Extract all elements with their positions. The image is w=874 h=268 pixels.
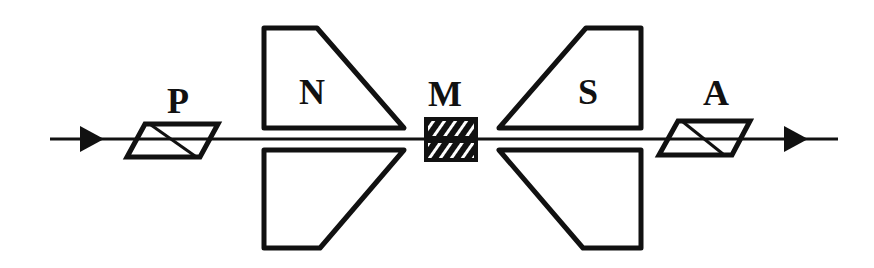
medium-label: M <box>428 74 462 114</box>
analyzer-label: A <box>703 73 729 113</box>
faraday-effect-diagram: P N M S A <box>0 0 874 268</box>
south-pole-label: S <box>578 72 598 112</box>
input-arrow-icon <box>80 126 104 152</box>
polarizer-label: P <box>167 81 189 121</box>
output-arrow-icon <box>784 126 808 152</box>
magneto-optic-medium <box>424 117 478 162</box>
north-pole-label: N <box>299 72 325 112</box>
